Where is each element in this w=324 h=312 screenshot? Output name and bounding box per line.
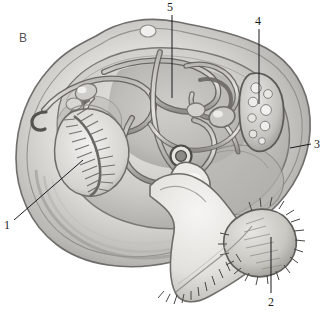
- panel-letter: B: [19, 32, 27, 44]
- label-2: 2: [268, 296, 274, 308]
- label-5: 5: [167, 1, 173, 13]
- figure-panel-b: B 1 2 3 4 5: [0, 0, 324, 312]
- label-4: 4: [255, 15, 261, 27]
- label-1: 1: [4, 219, 10, 231]
- anatomy-illustration: [0, 0, 324, 312]
- label-3: 3: [314, 138, 320, 150]
- gonad-vesicles: [239, 73, 283, 151]
